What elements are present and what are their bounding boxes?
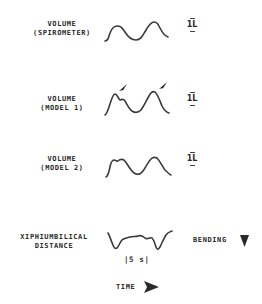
arrowhead-icon-peak-1 xyxy=(119,84,127,92)
waveforms xyxy=(0,0,262,304)
time-right-triangle-icon xyxy=(144,281,159,293)
waveform-spirometer xyxy=(105,22,168,41)
arrowhead-icon-peak-2 xyxy=(159,82,167,90)
waveform-model-1 xyxy=(105,92,169,115)
waveform-xiphiumbilical xyxy=(108,231,172,249)
waveform-model-2 xyxy=(106,157,171,177)
respiratory-diagram: VOLUME (SPIROMETER) 1L VOLUME (MODEL 1) … xyxy=(0,0,262,304)
bending-down-triangle-icon xyxy=(240,235,249,247)
